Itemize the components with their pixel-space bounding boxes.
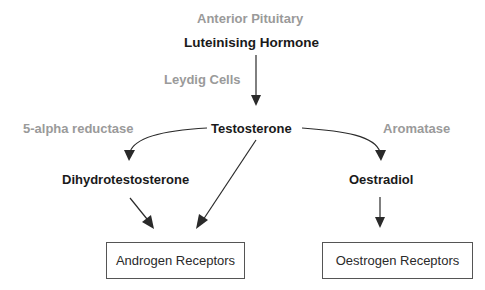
androgen-receptors-box: Androgen Receptors xyxy=(106,242,245,279)
arrow-lh-to-testosterone xyxy=(251,55,261,106)
arrow-testosterone-to-oestradiol xyxy=(302,128,386,161)
oestrogen-receptors-box: Oestrogen Receptors xyxy=(322,242,473,279)
testosterone-node: Testosterone xyxy=(211,121,292,137)
anterior-pituitary-label: Anterior Pituitary xyxy=(197,11,303,27)
arrow-testosterone-to-androgen xyxy=(196,140,256,229)
arrow-oestradiol-to-oestrogen xyxy=(375,197,385,228)
five-alpha-reductase-label: 5-alpha reductase xyxy=(23,121,134,137)
arrow-dht-to-androgen xyxy=(130,198,154,229)
aromatase-label: Aromatase xyxy=(383,121,450,137)
arrow-testosterone-to-dht xyxy=(124,128,207,161)
leydig-cells-label: Leydig Cells xyxy=(164,72,241,88)
oestradiol-node: Oestradiol xyxy=(349,172,413,188)
androgen-receptors-label: Androgen Receptors xyxy=(116,253,235,268)
luteinising-hormone-node: Luteinising Hormone xyxy=(184,35,319,51)
oestrogen-receptors-label: Oestrogen Receptors xyxy=(336,253,460,268)
dihydrotestosterone-node: Dihydrotestosterone xyxy=(62,172,189,188)
